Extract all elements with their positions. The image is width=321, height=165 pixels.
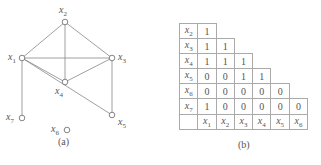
edge-x3-x4 [65, 58, 112, 82]
table-cell: 0 [216, 99, 234, 114]
table-cell: 0 [216, 84, 234, 99]
table-cell: 0 [253, 84, 271, 99]
empty-cell [271, 39, 289, 54]
table-cell: 0 [253, 99, 271, 114]
empty-cell [271, 24, 289, 39]
empty-cell [253, 24, 271, 39]
table-cell: 1 [216, 39, 234, 54]
node-label-x5: x5 [118, 117, 126, 130]
column-header-row: x1x2x3x4x5x6 [180, 114, 308, 129]
table-cell: 0 [289, 99, 307, 114]
node-x6 [64, 127, 70, 133]
row-header: x3 [180, 39, 198, 54]
column-header: x6 [289, 114, 307, 129]
table-caption: (b) [238, 139, 250, 150]
node-x5 [109, 112, 115, 118]
node-x4 [62, 79, 68, 85]
node-label-x1: x1 [8, 52, 16, 65]
node-label-x3: x3 [118, 52, 126, 65]
table-cell: 1 [253, 69, 271, 84]
edge-x1-x2 [22, 22, 65, 58]
row-header: x6 [180, 84, 198, 99]
table-cell: 1 [198, 99, 216, 114]
node-x7 [19, 115, 25, 121]
empty-cell [253, 39, 271, 54]
column-header: x3 [234, 114, 252, 129]
node-x1 [19, 55, 25, 61]
table-cell: 1 [198, 24, 216, 39]
row-header: x4 [180, 54, 198, 69]
table-cell: 0 [271, 99, 289, 114]
empty-cell [271, 69, 289, 84]
column-header: x2 [216, 114, 234, 129]
table-row: x600000 [180, 84, 308, 99]
table-cell: 0 [271, 84, 289, 99]
column-header: x5 [271, 114, 289, 129]
empty-cell [253, 54, 271, 69]
empty-cell [271, 54, 289, 69]
empty-cell [234, 24, 252, 39]
node-label-x2: x2 [59, 5, 67, 18]
empty-cell [234, 39, 252, 54]
edge-x1-x5 [22, 58, 112, 115]
table-row: x21 [180, 24, 308, 39]
table-cell: 0 [234, 99, 252, 114]
table-cell: 1 [198, 39, 216, 54]
table-row: x311 [180, 39, 308, 54]
column-header: x1 [198, 114, 216, 129]
corner-cell [180, 114, 198, 129]
edge-x2-x3 [65, 22, 112, 58]
empty-cell [289, 84, 307, 99]
table-cell: 1 [216, 54, 234, 69]
row-header: x7 [180, 99, 198, 114]
table-cell: 0 [198, 69, 216, 84]
empty-cell [289, 24, 307, 39]
table-cell: 0 [216, 69, 234, 84]
empty-cell [289, 69, 307, 84]
graph-caption: (a) [58, 136, 69, 147]
empty-cell [289, 39, 307, 54]
row-header: x2 [180, 24, 198, 39]
row-header: x5 [180, 69, 198, 84]
node-x3 [109, 55, 115, 61]
table-row: x7100000 [180, 99, 308, 114]
table-cell: 1 [234, 69, 252, 84]
table-cell: 1 [234, 54, 252, 69]
edge-x1-x4 [22, 58, 65, 82]
node-label-x7: x7 [6, 112, 14, 125]
table-row: x50011 [180, 69, 308, 84]
adjacency-table: x21x311x4111x50011x600000x7100000x1x2x3x… [179, 23, 308, 130]
table-cell: 0 [198, 84, 216, 99]
node-label-x4: x4 [55, 86, 63, 99]
column-header: x4 [253, 114, 271, 129]
empty-cell [216, 24, 234, 39]
table-row: x4111 [180, 54, 308, 69]
table-cell: 1 [198, 54, 216, 69]
node-x2 [62, 19, 68, 25]
empty-cell [289, 54, 307, 69]
table-cell: 0 [234, 84, 252, 99]
